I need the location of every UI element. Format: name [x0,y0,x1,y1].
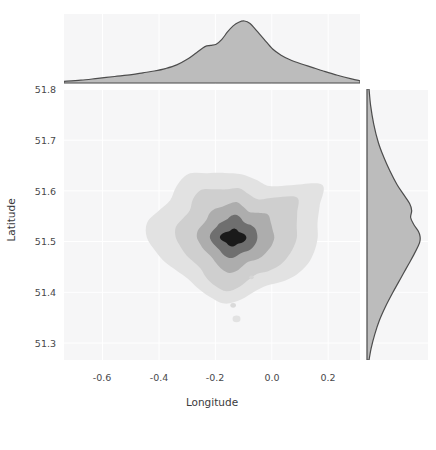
y-axis-title: Latitude [5,190,17,250]
ytick-label-3: 51.5 [22,236,56,247]
ytick-label-1: 51.7 [22,135,56,146]
xtick-label-2: -0.2 [195,372,235,383]
xtick-label-0: -0.6 [82,372,122,383]
ytick-label-4: 51.4 [22,287,56,298]
ytick-label-5: 51.3 [22,338,56,349]
marginal-x-panel [64,14,360,84]
contour-satellite-1 [230,303,236,308]
marginal-y-curve [367,89,420,360]
joint-panel [64,89,360,360]
joint-kde-figure: 51.8 51.7 51.6 51.5 51.4 51.3 -0.6 -0.4 … [0,0,436,450]
marginal-x-curve [64,21,360,83]
xtick-label-1: -0.4 [139,372,179,383]
xtick-label-3: 0.0 [252,372,292,383]
xtick-label-4: 0.2 [308,372,348,383]
ytick-label-2: 51.6 [22,186,56,197]
contour-bands [146,173,324,322]
contour-satellite-2 [233,316,241,323]
joint-kde-contours [64,89,360,360]
marginal-y-panel [366,89,428,360]
ytick-label-0: 51.8 [22,84,56,95]
marginal-x-density [64,14,360,84]
contour-satellite-0 [249,275,254,279]
x-axis-title: Longitude [64,396,360,408]
marginal-y-density [366,89,428,360]
